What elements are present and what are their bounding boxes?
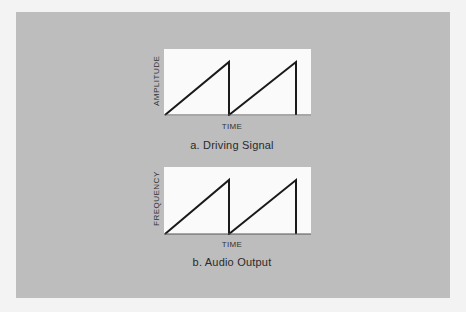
y-axis-label-amplitude: AMPLITUDE xyxy=(152,56,161,106)
x-axis-label-time-b: TIME xyxy=(202,240,262,249)
x-axis-label-time-a: TIME xyxy=(202,122,262,131)
caption-audio-output: b. Audio Output xyxy=(152,256,312,268)
figure-panel: AMPLITUDE TIME a. Driving Signal FREQUEN… xyxy=(16,12,450,298)
plot-audio-output xyxy=(164,167,311,234)
sawtooth-waveform-a xyxy=(164,49,311,116)
y-axis-label-frequency: FREQUENCY xyxy=(152,171,161,226)
sawtooth-waveform-b xyxy=(164,167,311,235)
plot-driving-signal xyxy=(164,49,311,116)
caption-driving-signal: a. Driving Signal xyxy=(152,139,312,151)
